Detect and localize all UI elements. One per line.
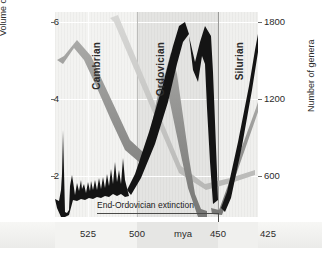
y-tick-left-6: 6 — [39, 16, 59, 27]
period-label-cambrian: Cambrian — [91, 42, 102, 90]
y-tick-right-600: 600 — [264, 170, 298, 181]
y-axis-left-label: Volume of volcanic rock (million km³) — [0, 0, 8, 36]
y-axis-right-label: Number of genera — [306, 2, 316, 112]
x-tick-500: 500 — [117, 228, 157, 239]
annotation-rule — [97, 213, 218, 214]
x-tick-425: 425 — [248, 228, 288, 239]
tickmark-right-1800 — [258, 22, 262, 23]
annotation-end-ordovician-extinction: End-Ordovician extinction — [97, 200, 194, 210]
y-tick-right-1200: 1200 — [264, 93, 298, 104]
tickmark-left-6 — [51, 22, 55, 23]
annotation-tick — [218, 213, 219, 222]
volcanism-diversity-chart: Cambrian Ordovician Silurian Volume of v… — [0, 0, 322, 266]
plot-area: Cambrian Ordovician Silurian — [55, 12, 258, 217]
period-label-ordovician: Ordovician — [155, 42, 166, 96]
tickmark-left-2 — [51, 176, 55, 177]
x-tick-525: 525 — [68, 228, 108, 239]
period-label-silurian: Silurian — [234, 42, 245, 80]
tickmark-right-600 — [258, 176, 262, 177]
y-tick-left-4: 4 — [39, 93, 59, 104]
x-axis-unit-label: mya — [163, 228, 203, 239]
y-tick-right-1800: 1800 — [264, 16, 298, 27]
tickmark-right-1200 — [258, 99, 262, 100]
x-tick-450: 450 — [198, 228, 238, 239]
tickmark-left-4 — [51, 99, 55, 100]
y-tick-left-2: 2 — [39, 170, 59, 181]
